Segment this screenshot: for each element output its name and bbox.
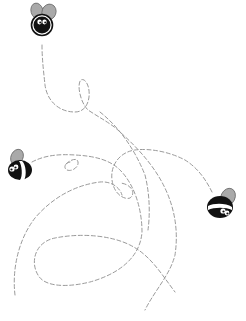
big-left-arc bbox=[14, 182, 122, 295]
left-bee-trail bbox=[32, 155, 175, 292]
small-loop bbox=[65, 159, 78, 170]
right-bee-trail bbox=[112, 149, 212, 198]
bee-face bbox=[34, 17, 51, 34]
top-bee bbox=[29, 2, 58, 36]
bee-illustration bbox=[0, 0, 246, 321]
top-bee-trail bbox=[42, 45, 176, 310]
diagonal-trail bbox=[100, 112, 149, 230]
left-bee bbox=[8, 147, 32, 180]
flight-trails bbox=[14, 45, 212, 310]
